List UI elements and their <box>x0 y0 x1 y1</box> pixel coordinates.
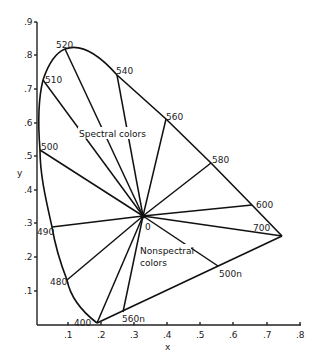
y-tick-label: .7 <box>24 84 33 94</box>
y-tick-label: .5 <box>24 151 33 161</box>
axes: .1 .2 .3 .4 .5 .6 .7 .8 .9 .1 .2 .3 .4 .… <box>17 17 305 352</box>
x-axis-title: x <box>165 342 171 352</box>
label-560: 560 <box>166 112 183 122</box>
label-510: 510 <box>45 75 62 85</box>
x-tick-label: .5 <box>196 330 205 340</box>
spectral-colors-label: Spectral colors <box>79 129 146 139</box>
x-tick-label: .6 <box>229 330 238 340</box>
y-axis-title: y <box>17 168 23 178</box>
label-500n: 500n <box>219 269 242 279</box>
label-700: 700 <box>253 223 270 233</box>
white-point-label: 0 <box>145 222 151 232</box>
nonspectral-colors-label-line2: colors <box>140 258 167 268</box>
label-600: 600 <box>256 200 273 210</box>
dominant-wavelength-rays <box>40 49 282 323</box>
label-520: 520 <box>56 40 73 50</box>
y-tick-label: .4 <box>24 185 33 195</box>
nonspectral-colors-label-line1: Nonspectral <box>140 246 194 256</box>
y-tick-label: .8 <box>24 50 33 60</box>
y-tick-label: .9 <box>24 17 33 27</box>
x-tick-label: .2 <box>97 330 106 340</box>
label-500: 500 <box>41 142 58 152</box>
label-580: 580 <box>212 155 229 165</box>
label-560n: 560n <box>122 314 145 324</box>
label-480: 480 <box>50 277 67 287</box>
x-tick-label: .3 <box>130 330 139 340</box>
white-point-marker <box>141 214 146 219</box>
y-tick-label: .1 <box>24 286 33 296</box>
y-tick-label: .2 <box>24 252 33 262</box>
spectral-locus-curve <box>39 47 282 323</box>
x-tick-label: .4 <box>163 330 172 340</box>
label-400: 400 <box>74 318 91 328</box>
wavelength-labels: 400 480 490 500 510 520 540 560 580 600 … <box>37 40 273 328</box>
x-tick-label: .7 <box>263 330 272 340</box>
y-tick-label: .6 <box>24 118 33 128</box>
y-tick-label: .3 <box>24 218 33 228</box>
x-tick-label: .1 <box>64 330 73 340</box>
x-tick-label: .8 <box>296 330 305 340</box>
label-490: 490 <box>37 227 54 237</box>
label-540: 540 <box>116 66 133 76</box>
chromaticity-diagram: .1 .2 .3 .4 .5 .6 .7 .8 .9 .1 .2 .3 .4 .… <box>0 0 319 359</box>
